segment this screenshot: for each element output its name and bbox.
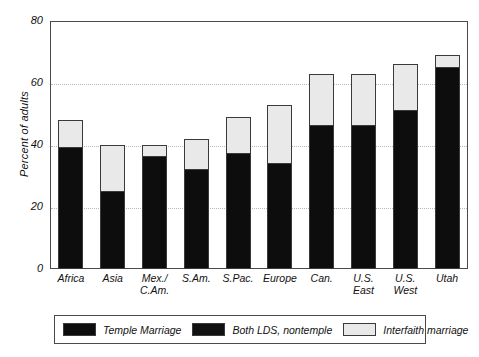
- x-tick-label: Africa: [50, 273, 92, 285]
- x-tick-label: S.Am.: [175, 273, 217, 285]
- x-tick-line-1: Utah: [426, 273, 468, 285]
- bar-segment-temple-marriage: [59, 147, 82, 268]
- bar-slot: [301, 21, 343, 269]
- legend-item: Temple Marriage: [63, 323, 181, 336]
- table-row: [393, 64, 418, 269]
- bar-segment-temple-marriage: [227, 153, 250, 268]
- bar-slot: [384, 21, 426, 269]
- bar-segment-temple-marriage: [394, 110, 417, 268]
- x-tick-line-1: Asia: [92, 273, 134, 285]
- x-tick-line-1: S.Pac.: [217, 273, 259, 285]
- legend-swatch-icon: [192, 323, 225, 336]
- legend-swatch-icon: [63, 323, 96, 336]
- table-row: [184, 139, 209, 269]
- bar-slot: [175, 21, 217, 269]
- y-tick-40: 40: [3, 138, 43, 150]
- table-row: [309, 74, 334, 269]
- bar-slot: [50, 21, 92, 269]
- bar-segment-temple-marriage: [310, 125, 333, 268]
- stacked-bar-chart-figure: Percent of adults 020406080 AfricaAsiaMe…: [0, 0, 479, 357]
- legend-label: Interfaith marriage: [383, 324, 468, 336]
- bar-slot: [217, 21, 259, 269]
- table-row: [267, 105, 292, 269]
- legend-item: Both LDS, nontemple: [192, 323, 332, 336]
- x-tick-line-1: Mex./: [134, 273, 176, 285]
- x-tick-label: Asia: [92, 273, 134, 285]
- bars-layer: [50, 21, 468, 269]
- bar-segment-temple-marriage: [436, 67, 459, 269]
- table-row: [226, 117, 251, 269]
- x-tick-label: Can.: [301, 273, 343, 285]
- x-tick-line-1: U.S.: [384, 273, 426, 285]
- legend-item: Interfaith marriage: [343, 323, 468, 336]
- legend-swatch-icon: [343, 323, 376, 336]
- table-row: [58, 120, 83, 269]
- legend-label: Both LDS, nontemple: [232, 324, 332, 336]
- x-tick-line-2: East: [343, 285, 385, 297]
- x-tick-line-1: U.S.: [343, 273, 385, 285]
- legend-label: Temple Marriage: [103, 324, 181, 336]
- table-row: [351, 74, 376, 269]
- bar-slot: [134, 21, 176, 269]
- x-tick-label: S.Pac.: [217, 273, 259, 285]
- table-row: [100, 145, 125, 269]
- x-tick-label: U.S.West: [384, 273, 426, 296]
- x-tick-line-1: Europe: [259, 273, 301, 285]
- x-tick-line-1: Can.: [301, 273, 343, 285]
- bar-segment-temple-marriage: [268, 163, 291, 268]
- x-tick-label: Utah: [426, 273, 468, 285]
- table-row: [435, 55, 460, 269]
- y-tick-80: 80: [3, 14, 43, 26]
- x-tick-line-1: Africa: [50, 273, 92, 285]
- table-row: [142, 145, 167, 269]
- bar-slot: [426, 21, 468, 269]
- x-tick-line-2: West: [384, 285, 426, 297]
- x-tick-line-1: S.Am.: [175, 273, 217, 285]
- bar-segment-temple-marriage: [143, 156, 166, 268]
- x-tick-label: Mex./C.Am.: [134, 273, 176, 296]
- y-tick-0: 0: [3, 262, 43, 274]
- bar-slot: [259, 21, 301, 269]
- x-tick-line-2: C.Am.: [134, 285, 176, 297]
- x-tick-label: U.S.East: [343, 273, 385, 296]
- bar-segment-temple-marriage: [352, 125, 375, 268]
- y-tick-20: 20: [3, 200, 43, 212]
- bar-segment-temple-marriage: [185, 169, 208, 268]
- bar-slot: [92, 21, 134, 269]
- x-tick-label: Europe: [259, 273, 301, 285]
- x-axis-tick-labels: AfricaAsiaMex./C.Am.S.Am.S.Pac.EuropeCan…: [50, 273, 468, 307]
- bar-segment-temple-marriage: [101, 191, 124, 269]
- chart-legend: Temple MarriageBoth LDS, nontempleInterf…: [54, 315, 426, 344]
- y-tick-60: 60: [3, 76, 43, 88]
- bar-slot: [343, 21, 385, 269]
